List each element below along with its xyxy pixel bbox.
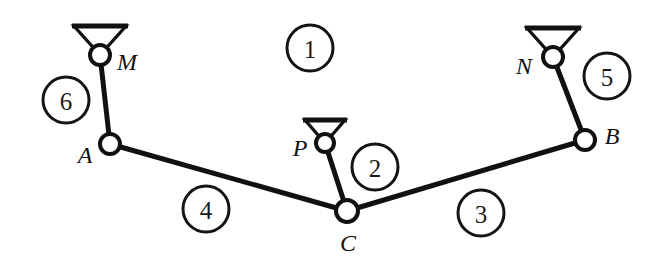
link-number-3: 3 [458, 190, 504, 236]
linkage-diagram: M A P C B N 1 6 2 5 [0, 0, 663, 269]
link-number-4: 4 [183, 186, 229, 232]
link-number-1: 1 [287, 25, 333, 71]
link-number-4-label: 4 [200, 197, 213, 224]
joint-a [100, 134, 120, 154]
link-number-6: 6 [43, 77, 89, 123]
point-label-m: M [116, 49, 139, 75]
link-5-line [553, 57, 585, 140]
link-number-1-label: 1 [304, 36, 317, 63]
link-number-2-label: 2 [369, 155, 382, 182]
joint-p [316, 134, 334, 152]
point-label-n: N [515, 53, 534, 79]
joint-b [575, 130, 595, 150]
link-number-5: 5 [584, 53, 630, 99]
joint-c [336, 200, 358, 222]
point-label-p: P [292, 135, 308, 161]
link-number-2: 2 [352, 144, 398, 190]
link-number-5-label: 5 [601, 64, 614, 91]
links-group [100, 55, 585, 211]
joint-m [90, 45, 110, 65]
mechanism-svg: M A P C B N 1 6 2 5 [0, 0, 663, 269]
joint-n [543, 47, 563, 67]
point-label-a: A [76, 142, 93, 168]
link-number-6-label: 6 [60, 88, 73, 115]
link-6-line [100, 55, 110, 144]
point-label-c: C [340, 230, 357, 256]
link-number-3-label: 3 [475, 201, 488, 228]
point-label-b: B [605, 123, 620, 149]
